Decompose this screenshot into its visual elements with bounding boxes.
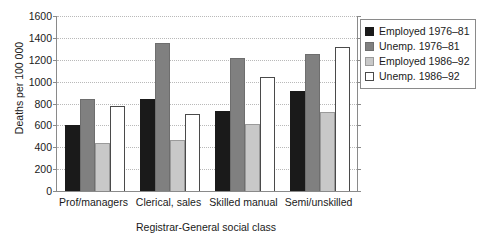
y-tick-label: 0 xyxy=(12,186,52,196)
y-tick-label: 1200 xyxy=(12,55,52,65)
bar xyxy=(320,112,335,191)
y-axis-tick-labels: 02004006008001000120014001600 xyxy=(12,16,52,191)
legend-swatch-icon xyxy=(365,57,374,66)
y-tick-mark-right xyxy=(357,125,361,126)
y-tick-label: 200 xyxy=(12,164,52,174)
bar xyxy=(155,43,170,191)
y-tick-mark-right xyxy=(357,16,361,17)
x-tick-label: Semi/unskilled xyxy=(281,196,356,209)
bar-group xyxy=(207,16,282,191)
y-tick-label: 800 xyxy=(12,99,52,109)
y-tick-label: 600 xyxy=(12,120,52,130)
x-tick-label: Clerical, sales xyxy=(131,196,206,209)
legend-label: Unemp. 1976–81 xyxy=(379,40,460,53)
bar xyxy=(335,47,350,191)
legend-swatch-icon xyxy=(365,27,374,36)
bar xyxy=(305,54,320,191)
y-tick-label: 400 xyxy=(12,142,52,152)
y-tick-label: 1400 xyxy=(12,33,52,43)
x-tick-label: Prof/managers xyxy=(56,196,131,209)
bar xyxy=(185,114,200,191)
y-tick-mark-right xyxy=(357,169,361,170)
x-axis-tick-labels: Prof/managersClerical, salesSkilled manu… xyxy=(56,196,356,209)
bar xyxy=(95,143,110,191)
y-tick-mark-right xyxy=(357,191,361,192)
y-tick-mark xyxy=(53,191,57,192)
y-tick-label: 1600 xyxy=(12,11,52,21)
legend-swatch-icon xyxy=(365,42,374,51)
y-tick-label: 1000 xyxy=(12,77,52,87)
x-tick-label: Skilled manual xyxy=(206,196,281,209)
bar xyxy=(215,111,230,191)
legend-item: Employed 1976–81 xyxy=(365,24,470,39)
legend-swatch-icon xyxy=(365,72,374,81)
bar xyxy=(170,140,185,191)
legend-label: Employed 1976–81 xyxy=(379,25,470,38)
bar xyxy=(65,125,80,191)
bar xyxy=(110,106,125,191)
bar xyxy=(80,99,95,191)
legend-item: Employed 1986–92 xyxy=(365,54,470,69)
bar-group xyxy=(282,16,357,191)
bar xyxy=(140,99,155,191)
legend-item: Unemp. 1976–81 xyxy=(365,39,470,54)
legend-label: Employed 1986–92 xyxy=(379,55,470,68)
bar xyxy=(245,124,260,191)
bar xyxy=(290,91,305,191)
y-tick-mark-right xyxy=(357,104,361,105)
legend-label: Unemp. 1986–92 xyxy=(379,70,460,83)
x-axis-title: Registrar-General social class xyxy=(56,221,356,233)
legend: Employed 1976–81Unemp. 1976–81Employed 1… xyxy=(360,19,476,89)
legend-item: Unemp. 1986–92 xyxy=(365,69,470,84)
plot-area xyxy=(56,16,358,192)
bar-groups xyxy=(57,16,357,191)
y-tick-mark-right xyxy=(357,147,361,148)
bar-chart: Deaths per 100 000 020040060080010001200… xyxy=(0,0,479,245)
bar-group xyxy=(132,16,207,191)
bar xyxy=(260,77,275,191)
bar-group xyxy=(57,16,132,191)
bar xyxy=(230,58,245,191)
